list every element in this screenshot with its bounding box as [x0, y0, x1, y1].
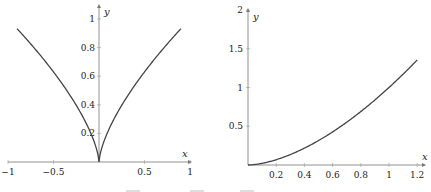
right-x-tick-label: 0.8 — [354, 170, 369, 180]
left-plot: −1−0.50.510.20.40.60.81 x y — [1, 4, 193, 177]
left-x-tick-label: 0.5 — [137, 167, 152, 177]
right-y-tick-label: 0.5 — [229, 121, 244, 131]
left-x-tick-label: −0.5 — [43, 167, 65, 177]
right-y-tick-label: 1.5 — [229, 44, 244, 54]
left-x-label: x — [182, 148, 188, 159]
right-x-tick-label: 0.4 — [297, 170, 312, 180]
left-x-tick-label: −1 — [1, 167, 14, 177]
right-curve — [248, 60, 417, 165]
right-x-label: x — [422, 151, 428, 162]
left-y-tick-label: 0.8 — [81, 43, 96, 53]
figure: −1−0.50.510.20.40.60.81 x y 0.20.40.60.8… — [0, 0, 431, 192]
right-x-arrow-icon — [422, 163, 426, 167]
right-y-tick-label: 2 — [237, 5, 243, 15]
right-x-tick-label: 0.2 — [269, 170, 283, 180]
right-x-tick-label: 1.2 — [410, 170, 424, 180]
left-y-tick-label: 0.4 — [81, 100, 96, 110]
right-x-tick-label: 1 — [386, 170, 392, 180]
left-y-tick-label: 0.6 — [81, 71, 96, 81]
right-x-tick-label: 0.6 — [325, 170, 340, 180]
right-plot: 0.20.40.60.811.20.511.52 x y — [229, 5, 428, 180]
left-y-label: y — [103, 6, 110, 17]
right-y-tick-label: 1 — [237, 83, 243, 93]
right-ticks: 0.20.40.60.811.20.511.52 — [229, 5, 425, 180]
left-y-tick-label: 1 — [89, 14, 95, 24]
left-x-tick-label: 1 — [187, 167, 193, 177]
right-y-label: y — [252, 11, 259, 22]
left-y-arrow-icon — [97, 4, 101, 8]
